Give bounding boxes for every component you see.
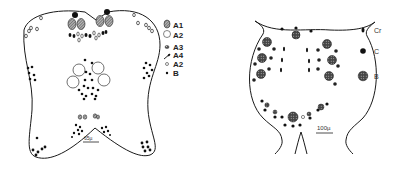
legend-item-a2-large: A2 <box>164 31 184 41</box>
svg-text:A4: A4 <box>173 51 184 60</box>
scale-bar-left: 65µ <box>83 135 99 142</box>
svg-text:Cr: Cr <box>374 27 382 34</box>
svg-text:100µ: 100µ <box>317 125 331 131</box>
legend-left: A1 A2 A3 A4 A2 B <box>164 20 184 78</box>
b-cells-right <box>323 40 337 81</box>
svg-text:B: B <box>374 73 379 80</box>
right-diagram-svg: 100µ Cr C B <box>205 0 408 172</box>
legend-item-a4: A4 <box>164 51 184 60</box>
bottom-notch-cells <box>78 114 99 119</box>
svg-text:A2: A2 <box>173 60 184 69</box>
bottom-cells <box>260 99 328 127</box>
svg-text:65µ: 65µ <box>84 135 93 141</box>
left-diagram-svg: 65µ A1 A2 A3 A4 A2 <box>0 0 205 172</box>
svg-text:C: C <box>374 48 379 55</box>
right-edge-cells <box>133 13 154 33</box>
legend-item-a1: A1 <box>164 20 184 30</box>
scale-bar-right: 100µ <box>316 125 333 133</box>
svg-text:A1: A1 <box>173 21 184 30</box>
gland-outline-right <box>346 22 377 154</box>
cr-cells-right <box>306 48 310 73</box>
a1-cluster-top <box>68 9 113 30</box>
legend-right: Cr C B <box>358 27 382 81</box>
b-dots-right-middle <box>143 62 154 80</box>
a2-cluster-center <box>67 62 110 88</box>
legend-item-c: C <box>360 48 379 55</box>
legend-item-a2-small: A2 <box>166 60 184 69</box>
top-cells <box>280 26 312 39</box>
left-diagram: 65µ A1 A2 A3 A4 A2 <box>0 0 205 172</box>
cr-cells-left <box>280 47 285 73</box>
small-cells-top-row <box>69 30 108 42</box>
legend-item-cr: Cr <box>362 27 383 34</box>
svg-text:A2: A2 <box>173 31 184 40</box>
right-diagram: 100µ Cr C B <box>205 0 408 172</box>
b-dots-left-middle <box>27 66 37 82</box>
gland-top-outline <box>255 21 375 30</box>
svg-text:B: B <box>173 69 179 78</box>
legend-item-b: B <box>358 71 379 81</box>
duct-outline <box>295 132 307 154</box>
left-edge-cells <box>25 16 43 38</box>
legend-item-b: B <box>166 69 179 78</box>
